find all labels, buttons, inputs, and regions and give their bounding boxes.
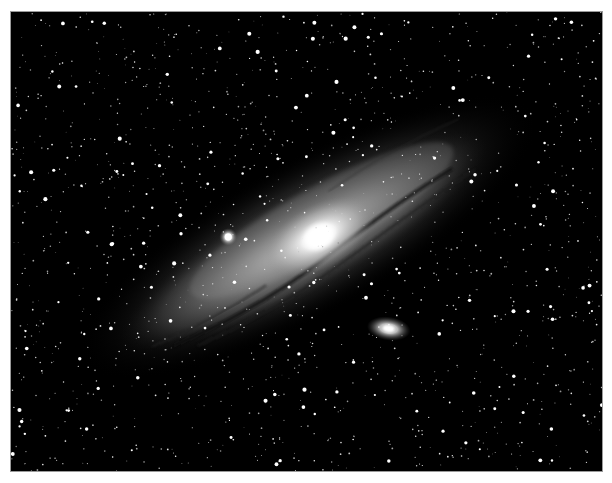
star [96, 380, 97, 381]
star [178, 49, 179, 50]
star [105, 208, 106, 209]
star [436, 194, 437, 195]
star [258, 444, 259, 445]
star [209, 315, 210, 316]
star [27, 324, 28, 325]
star [568, 111, 569, 112]
star [565, 219, 567, 221]
star [134, 171, 135, 172]
star [239, 245, 240, 246]
star [388, 324, 390, 326]
star [221, 267, 222, 268]
star [395, 376, 396, 377]
star [202, 265, 203, 266]
bright-star [512, 374, 515, 377]
star [371, 262, 372, 263]
star [175, 33, 177, 35]
star [129, 191, 130, 192]
star [472, 208, 473, 209]
star [265, 379, 266, 380]
star [328, 231, 329, 232]
star [240, 243, 241, 244]
star [511, 453, 512, 454]
star [378, 100, 379, 101]
star [259, 69, 261, 71]
star [347, 401, 349, 403]
star [576, 118, 577, 119]
star [254, 165, 255, 166]
star [515, 223, 517, 225]
star [552, 22, 553, 23]
star [251, 149, 252, 150]
star [188, 25, 189, 26]
star [473, 318, 475, 320]
star [397, 220, 398, 221]
star [268, 95, 269, 96]
bright-star [139, 265, 143, 269]
star [575, 316, 576, 317]
star [587, 208, 588, 209]
star [553, 106, 554, 107]
star [143, 86, 144, 87]
star [332, 470, 333, 471]
star [150, 230, 151, 231]
star [41, 202, 42, 203]
star [582, 202, 583, 203]
star [581, 24, 583, 26]
star [565, 289, 566, 290]
star [260, 16, 261, 17]
star [273, 390, 274, 391]
star [342, 92, 343, 93]
star [260, 124, 261, 125]
star [171, 348, 172, 349]
star [362, 298, 363, 299]
star [125, 65, 126, 66]
star [99, 119, 100, 120]
star [143, 268, 145, 270]
star [340, 442, 342, 444]
star [171, 190, 172, 191]
star [98, 51, 99, 52]
star [97, 83, 98, 84]
star [406, 78, 407, 79]
star [461, 455, 463, 457]
bright-star [97, 387, 100, 390]
star [412, 336, 413, 337]
star [334, 406, 336, 408]
star [16, 141, 17, 142]
star [275, 332, 276, 333]
star [235, 155, 236, 156]
star [281, 299, 283, 301]
star [226, 91, 228, 93]
star [279, 439, 280, 440]
star [217, 449, 218, 450]
star [484, 190, 486, 192]
star [123, 259, 125, 261]
star [24, 191, 25, 192]
star [118, 351, 119, 352]
star [460, 330, 461, 331]
bright-star [527, 55, 530, 58]
bright-star [264, 399, 268, 403]
star [260, 436, 261, 437]
star [296, 50, 297, 51]
star [38, 326, 39, 327]
satellite-galaxy-left-core [225, 234, 232, 241]
star [452, 26, 454, 28]
star [336, 91, 337, 92]
star [327, 440, 328, 441]
star [103, 36, 104, 37]
star [567, 194, 568, 195]
star [293, 457, 295, 459]
star [266, 195, 267, 196]
bright-star [158, 164, 161, 167]
star [109, 178, 111, 180]
star [97, 43, 98, 44]
star [90, 314, 91, 315]
bright-star [110, 242, 114, 246]
star [113, 416, 114, 417]
star [573, 369, 575, 371]
star [479, 406, 480, 407]
star [480, 354, 481, 355]
bright-star [398, 272, 401, 275]
